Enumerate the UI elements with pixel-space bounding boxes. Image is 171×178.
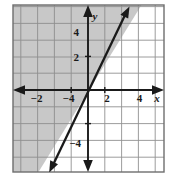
y-axis-label: y [91,10,98,22]
y-tick-label--4: −4 [69,137,81,149]
x-tick-label--4: −4 [63,92,75,104]
x-axis-label: x [153,92,160,104]
x-tick-label-2: 2 [104,92,110,104]
coordinate-plane-svg: −4 −2 2 4 4 2 −4 y x [0,0,171,178]
x-tick-label-4: 4 [137,92,143,104]
graph-figure: −4 −2 2 4 4 2 −4 y x [0,0,171,178]
y-tick-label-2: 2 [74,51,80,63]
x-tick-label--2: −2 [31,92,43,104]
y-tick-label-4: 4 [74,26,80,38]
